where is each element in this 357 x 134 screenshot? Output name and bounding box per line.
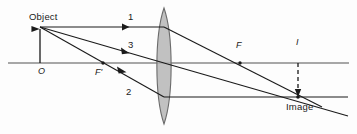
object-label: Object <box>29 11 58 22</box>
converging-lens <box>157 8 171 124</box>
ray-1-arrowhead <box>122 24 130 31</box>
ray-3-refracted <box>164 63 348 116</box>
back-focus-label: F <box>236 40 242 50</box>
ray-1-label: 1 <box>128 11 133 22</box>
front-focus-dot <box>101 61 104 64</box>
ray-diagram-figure: Object Image O F' F I 1 3 2 <box>0 0 357 134</box>
image-point-label: I <box>296 37 299 47</box>
front-focus-label: F' <box>95 67 102 77</box>
back-focus-dot <box>238 61 241 64</box>
optical-center-label: O <box>38 66 45 76</box>
ray-2-label: 2 <box>126 86 131 97</box>
image-label: Image <box>286 101 313 112</box>
image-point-dot <box>296 95 300 99</box>
ray-2-arrowhead <box>117 67 127 74</box>
ray-3-incident <box>40 27 164 63</box>
ray-3-label: 3 <box>128 39 133 50</box>
